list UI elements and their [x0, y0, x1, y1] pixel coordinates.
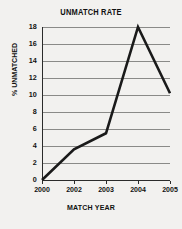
data-series-line: [42, 27, 170, 180]
y-tick-label: 6: [13, 124, 36, 133]
y-tick-label: 12: [13, 73, 36, 82]
y-tick-label: 2: [13, 158, 36, 167]
y-tick-label: 16: [13, 39, 36, 48]
x-tick-label: 2004: [123, 185, 153, 194]
y-tick-label: 18: [13, 22, 36, 31]
x-tick-mark: [42, 181, 43, 184]
x-tick-mark: [74, 181, 75, 184]
x-tick-label: 2005: [155, 185, 182, 194]
y-tick-label: 4: [13, 141, 36, 150]
x-axis-label: MATCH YEAR: [11, 203, 171, 212]
x-tick-label: 2003: [91, 185, 121, 194]
y-tick-label: 14: [13, 56, 36, 65]
y-tick-label: 0: [13, 175, 36, 184]
y-tick-label: 8: [13, 107, 36, 116]
x-tick-label: 2000: [27, 185, 57, 194]
x-tick-mark: [170, 181, 171, 184]
x-tick-mark: [138, 181, 139, 184]
chart-title: UNMATCH RATE: [11, 7, 171, 17]
x-tick-mark: [106, 181, 107, 184]
x-tick-label: 2002: [59, 185, 89, 194]
chart-figure: UNMATCH RATE % UNMATCHED MATCH YEAR 0246…: [0, 0, 182, 229]
y-tick-label: 10: [13, 90, 36, 99]
